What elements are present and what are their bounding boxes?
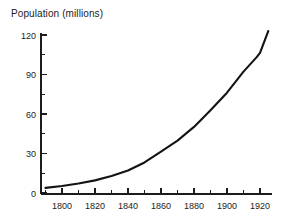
y-tick-label: 0 xyxy=(31,189,36,199)
population-line-series xyxy=(46,31,269,188)
x-tick-label: 1860 xyxy=(151,201,171,211)
y-tick-label: 120 xyxy=(21,31,36,41)
population-chart: Population (millions) xyxy=(0,0,281,223)
y-tick-label: 60 xyxy=(26,110,36,120)
x-tick-label: 1820 xyxy=(85,201,105,211)
x-tick-label: 1880 xyxy=(184,201,204,211)
y-tick-label: 30 xyxy=(26,149,36,159)
chart-plot-area: 120 90 60 30 0 1800 1820 1840 1860 1880 … xyxy=(0,0,281,223)
y-axis-major-ticks xyxy=(41,35,47,193)
x-tick-label: 1920 xyxy=(250,201,270,211)
x-tick-label: 1900 xyxy=(217,201,237,211)
x-tick-label: 1800 xyxy=(52,201,72,211)
x-axis-minor-ticks xyxy=(46,190,244,194)
y-tick-label: 90 xyxy=(26,70,36,80)
y-axis-tick-labels: 120 90 60 30 0 xyxy=(21,31,36,199)
x-axis-major-ticks xyxy=(62,188,260,194)
x-axis-tick-labels: 1800 1820 1840 1860 1880 1900 1920 xyxy=(52,201,270,211)
x-tick-label: 1840 xyxy=(118,201,138,211)
